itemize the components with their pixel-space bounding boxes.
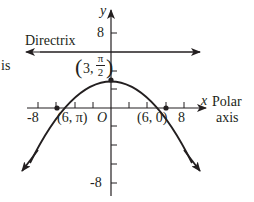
polar-parabola-diagram: y 8 -8 Directrix is ( 3 , π 2 ) -8 (6, π…: [0, 0, 254, 202]
y-tick-label-8: 8: [97, 26, 104, 40]
vertex-theta-fraction: π 2: [96, 53, 105, 78]
polar-axis-label-line1: Polar: [212, 95, 242, 109]
point-label-6-0: (6, 0): [137, 111, 167, 125]
directrix-label: Directrix: [25, 34, 76, 48]
x-tick-label-neg8: -8: [27, 111, 39, 125]
x-axis: [27, 102, 206, 108]
x-axis-label: x: [201, 94, 207, 108]
origin-label: O: [97, 111, 107, 125]
polar-axis-label-line2: axis: [216, 111, 239, 125]
point-label-6-pi: (6, π): [57, 111, 87, 125]
partial-left-text: is: [1, 59, 10, 73]
x-tick-label-8: 8: [178, 111, 185, 125]
y-axis: [111, 10, 117, 196]
vertex-r: 3: [83, 62, 90, 76]
y-axis-label: y: [100, 4, 106, 18]
y-tick-label-neg8: -8: [90, 176, 102, 190]
